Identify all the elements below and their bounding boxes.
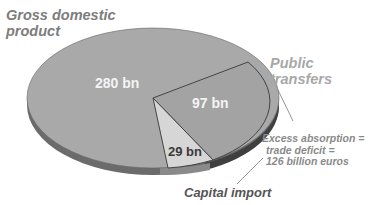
annotation-excess-absorption: Excess absorption = trade deficit = 126 …	[262, 133, 378, 168]
label-public-line1: Public	[270, 55, 314, 71]
excess-line1: Excess absorption =	[262, 133, 378, 145]
leader-line-capital	[237, 158, 263, 184]
leader-line-transfers	[278, 90, 293, 121]
excess-line3: 126 billion euros	[262, 156, 378, 168]
value-public-transfers: 97 bn	[192, 95, 229, 111]
label-capital-import: Capital import	[184, 186, 271, 200]
label-gdp: Gross domestic product	[6, 8, 136, 40]
value-gdp: 280 bn	[95, 75, 139, 91]
value-capital-import: 29 bn	[168, 144, 202, 159]
label-public-transfers: Public transfers	[270, 56, 370, 88]
label-public-line2: transfers	[270, 71, 332, 87]
